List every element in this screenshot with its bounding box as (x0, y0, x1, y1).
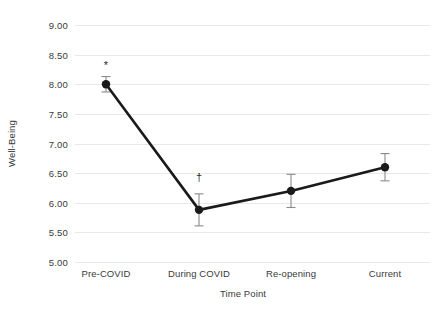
x-axis-title: Time Point (55, 288, 431, 299)
data-series-layer (0, 0, 445, 315)
data-point-marker (102, 80, 110, 88)
data-point-marker (287, 187, 295, 195)
data-point-marker (381, 163, 389, 171)
well-being-line-chart: Well-Being 5.005.506.006.507.007.508.008… (0, 0, 445, 315)
significance-marker: * (104, 59, 108, 70)
series-line (106, 84, 385, 210)
significance-marker: † (196, 171, 202, 182)
data-point-marker (195, 206, 203, 214)
